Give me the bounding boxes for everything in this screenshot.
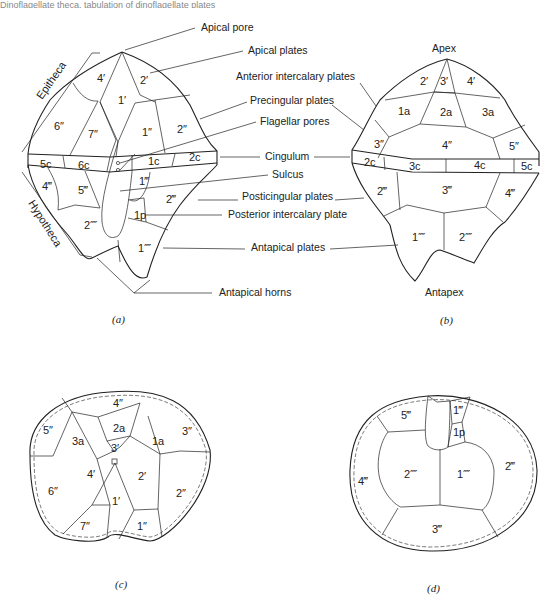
plate-a-1ap: 1′ <box>118 94 126 106</box>
plate-b-3ap: 3′ <box>440 75 448 87</box>
plate-a-2pre: 2″ <box>177 123 187 135</box>
epitheca-label: Epitheca <box>34 58 69 101</box>
plate-b-3post: 3‴ <box>442 184 452 196</box>
plate-d-2post: 2‴ <box>505 460 515 472</box>
plate-a-4post: 4‴ <box>42 180 52 192</box>
plate-c-2a: 2a <box>113 422 126 434</box>
plate-c-7pre: 7″ <box>80 520 90 532</box>
plate-d-4post: 4‴ <box>358 475 368 487</box>
callout-flagellar-pores: Flagellar pores <box>260 115 329 127</box>
caption-d: (d) <box>427 582 440 595</box>
plate-a-6c: 6c <box>78 159 90 171</box>
apex-label: Apex <box>432 42 457 54</box>
caption-a: (a) <box>112 313 125 326</box>
plate-c-1a: 1a <box>152 435 165 447</box>
plate-a-1pre: 1″ <box>142 126 152 138</box>
plate-b-3pre: 3″ <box>374 138 384 150</box>
plate-b-3c: 3c <box>409 160 421 172</box>
plate-b-2post: 2‴ <box>377 185 387 197</box>
plate-b-3a: 3a <box>482 106 495 118</box>
plate-d-1ant: 1⁗ <box>457 468 471 480</box>
plate-b-1ant: 1⁗ <box>412 231 426 243</box>
plate-c-4ap: 4′ <box>87 468 95 480</box>
plate-a-2ant: 2⁗ <box>84 219 98 231</box>
callout-antapical-horns: Antapical horns <box>219 286 291 298</box>
plate-d-3post: 3‴ <box>432 523 442 535</box>
plate-b-4c: 4c <box>474 159 486 171</box>
plate-b-2ant: 2⁗ <box>459 231 473 243</box>
plate-b-4ap: 4′ <box>467 75 475 87</box>
plate-a-4ap: 4′ <box>97 72 105 84</box>
callout-apical-plates: Apical plates <box>248 44 308 56</box>
figure-b: Apex 2′ 3′ 4′ 1a 2a 3a 3″ 4″ 5″ 2c 3c 4c… <box>352 42 539 327</box>
plate-d-2ant: 2⁗ <box>404 468 418 480</box>
callout-cingulum: Cingulum <box>265 150 310 162</box>
figure-d: 5‴ 1‴ 1p 4‴ 2⁗ 1⁗ 2‴ 3‴ (d) <box>350 396 537 595</box>
plate-b-5c: 5c <box>521 160 533 172</box>
plate-b-4pre: 4″ <box>442 139 452 151</box>
plate-a-1ant: 1⁗ <box>138 242 152 254</box>
callout-apical-pore: Apical pore <box>201 21 254 33</box>
plate-d-1p: 1p <box>453 426 465 438</box>
plate-b-1a: 1a <box>398 105 411 117</box>
plate-c-5pre: 5″ <box>43 424 53 436</box>
plate-b-4post: 4‴ <box>505 187 515 199</box>
callout-anterior-intercalary: Anterior intercalary plates <box>236 70 355 82</box>
callout-precingular: Precingular plates <box>250 94 334 106</box>
plate-c-6pre: 6″ <box>48 485 58 497</box>
plate-d-5post: 5‴ <box>401 409 411 421</box>
plate-c-3pre: 3″ <box>182 425 192 437</box>
callout-sulcus: Sulcus <box>272 168 304 180</box>
plate-c-2ap: 2′ <box>138 470 146 482</box>
figure-a: 4′ 2′ 1′ 6″ 7″ 1″ 2″ 5c 6c 1c 2c 4‴ 5‴ 1… <box>22 52 217 326</box>
plate-b-5pre: 5″ <box>509 140 519 152</box>
callouts: Apical pore Apical plates Anterior inter… <box>97 21 398 298</box>
plate-c-1pre: 1″ <box>137 520 147 532</box>
plate-a-2post: 2‴ <box>166 193 176 205</box>
antapex-label: Antapex <box>425 286 464 298</box>
plate-a-2ap: 2′ <box>140 74 148 86</box>
plate-c-3a: 3a <box>72 435 85 447</box>
plate-c-1ap: 1′ <box>112 495 120 507</box>
plate-diagram: 4′ 2′ 1′ 6″ 7″ 1″ 2″ 5c 6c 1c 2c 4‴ 5‴ 1… <box>0 0 560 598</box>
plate-a-1post: 1‴ <box>139 175 149 187</box>
plate-a-2c: 2c <box>189 151 201 163</box>
plate-c-4pre: 4″ <box>113 397 123 409</box>
plate-d-1post: 1‴ <box>453 404 463 416</box>
caption-c: (c) <box>115 578 128 591</box>
plate-b-2ap: 2′ <box>420 75 428 87</box>
callout-antapical-plates: Antapical plates <box>251 241 325 253</box>
plate-a-1c: 1c <box>148 155 160 167</box>
plate-b-2a: 2a <box>440 106 453 118</box>
plate-a-5c: 5c <box>40 158 52 170</box>
callout-posterior-intercalary: Posterior intercalary plate <box>228 208 347 220</box>
plate-a-1p: 1p <box>134 209 146 221</box>
callout-posticingular: Posticingular plates <box>242 190 333 202</box>
caption-b: (b) <box>440 314 453 327</box>
plate-c-2pre: 2″ <box>176 487 186 499</box>
plate-a-5post: 5‴ <box>78 184 88 196</box>
plate-b-2c: 2c <box>364 156 376 168</box>
figure-c: 4″ 2a 5″ 3a 3′ 1a 3″ 4′ 2′ 6″ 1′ 2″ 7″ 1… <box>30 391 210 591</box>
plate-c-3ap: 3′ <box>111 442 119 454</box>
plate-a-7pre: 7″ <box>88 128 98 140</box>
plate-a-6pre: 6″ <box>54 120 64 132</box>
